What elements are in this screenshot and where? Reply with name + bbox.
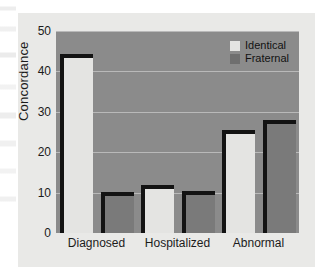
y-axis-tick-label: 0 <box>44 227 51 239</box>
bar-hospitalized-fraternal <box>182 191 215 233</box>
y-axis-tick-label: 40 <box>38 65 51 77</box>
bar-diagnosed-identical <box>60 54 93 233</box>
bar-diagnosed-fraternal <box>101 192 134 233</box>
x-axis-tick-label: Abnormal <box>233 237 284 249</box>
x-axis-tick-label: Diagnosed <box>68 237 125 249</box>
y-axis-title: Concordance <box>16 41 31 121</box>
plot-area: 01020304050 Identical Fraternal <box>56 31 299 233</box>
x-axis-tick-label: Hospitalized <box>145 237 210 249</box>
y-axis-tick-label: 20 <box>38 146 51 158</box>
x-axis-ticks: DiagnosedHospitalizedAbnormal <box>56 237 299 257</box>
y-axis-tick-label: 50 <box>38 25 51 37</box>
legend-item-fraternal: Fraternal <box>230 53 289 64</box>
legend-label-identical: Identical <box>245 40 286 51</box>
scan-artifact-margin <box>0 0 16 279</box>
legend-item-identical: Identical <box>230 40 289 51</box>
y-axis-tick-label: 10 <box>38 187 51 199</box>
legend-swatch-identical-icon <box>230 41 240 51</box>
bar-hospitalized-identical <box>141 185 174 233</box>
y-axis-tick-label: 30 <box>38 106 51 118</box>
bar-abnormal-fraternal <box>263 120 296 233</box>
chart-legend: Identical Fraternal <box>230 40 289 64</box>
chart-figure: Concordance 01020304050 Identical Frater… <box>18 13 315 267</box>
bar-abnormal-identical <box>222 130 255 233</box>
legend-label-fraternal: Fraternal <box>245 53 289 64</box>
legend-swatch-fraternal-icon <box>230 54 240 64</box>
